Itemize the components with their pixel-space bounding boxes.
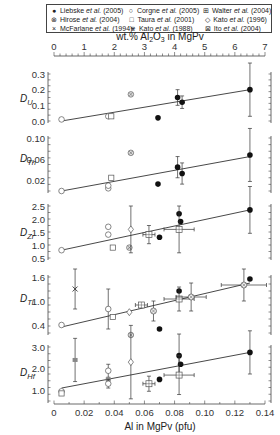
svg-text:1.0: 1.0	[32, 240, 45, 251]
panel-D_Th: 0.100.060.02DTh	[20, 128, 271, 193]
svg-text:1.0: 1.0	[32, 296, 45, 307]
svg-text:0.10: 0.10	[195, 407, 214, 418]
svg-text:1.0: 1.0	[32, 385, 45, 396]
panel-D_U: 0.30.20.10.0DU	[20, 63, 271, 126]
svg-text:0.08: 0.08	[165, 407, 184, 418]
svg-text:0.04: 0.04	[105, 407, 124, 418]
svg-text:7: 7	[262, 41, 267, 52]
bottom-axis-label: Al in MgPv (pfu)	[124, 421, 195, 432]
panel-D_Zr: 2.52.01.51.00.5DZr	[20, 187, 271, 264]
svg-text:4: 4	[172, 41, 177, 52]
svg-text:0: 0	[51, 41, 56, 52]
panel-D_Ti: 1.61.00.4DTi	[20, 269, 271, 338]
svg-text:2: 2	[112, 41, 117, 52]
svg-text:0: 0	[51, 407, 56, 418]
svg-text:0.3: 0.3	[32, 69, 45, 80]
svg-text:5: 5	[202, 41, 207, 52]
svg-text:0.02: 0.02	[27, 175, 46, 186]
svg-text:1.6: 1.6	[32, 272, 45, 283]
svg-text:1: 1	[81, 41, 86, 52]
partition-coefficient-chart: 01234567wt.% Al2O3 in MgPv0.30.20.10.0DU…	[0, 0, 280, 435]
top-axis-label: wt.% Al2O3 in MgPv	[115, 31, 203, 43]
panel-D_Hf: 3.02.01.0DHf	[20, 325, 271, 403]
svg-text:0.1: 0.1	[32, 100, 45, 111]
svg-text:0.10: 0.10	[27, 133, 46, 144]
svg-text:0.02: 0.02	[75, 407, 94, 418]
svg-text:2.5: 2.5	[32, 201, 45, 212]
svg-text:0.12: 0.12	[226, 407, 245, 418]
svg-text:0.4: 0.4	[32, 320, 45, 331]
svg-text:0.5: 0.5	[32, 253, 45, 264]
svg-text:2.0: 2.0	[32, 214, 45, 225]
svg-text:0.0: 0.0	[32, 116, 45, 127]
svg-text:0.2: 0.2	[32, 84, 45, 95]
svg-text:0.06: 0.06	[135, 407, 154, 418]
svg-text:0.14: 0.14	[256, 407, 275, 418]
svg-text:6: 6	[232, 41, 237, 52]
svg-text:3: 3	[142, 41, 147, 52]
svg-text:3.0: 3.0	[32, 342, 45, 353]
